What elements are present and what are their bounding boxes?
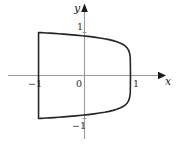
figure-canvas: y x 1 −1 −1 1 0 <box>0 0 178 144</box>
y-tick-label-negative-one: −1 <box>72 121 86 131</box>
y-tick-label-positive-one: 1 <box>77 22 83 32</box>
y-axis-arrowhead-icon <box>81 4 88 13</box>
plot-svg <box>0 0 178 144</box>
x-axis-label: x <box>165 76 171 87</box>
origin-label: 0 <box>76 79 82 89</box>
x-tick-label-negative-one: −1 <box>28 79 42 89</box>
x-tick-label-positive-one: 1 <box>133 79 139 89</box>
y-axis-label: y <box>74 3 80 14</box>
